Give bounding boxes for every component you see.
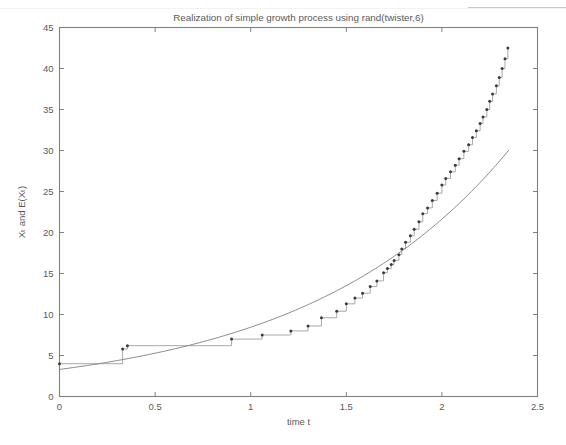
jump-marker <box>444 177 447 180</box>
jump-marker <box>462 150 465 153</box>
jump-marker <box>261 334 264 337</box>
jump-marker <box>467 143 470 146</box>
y-tick-label-3: 15 <box>43 268 54 279</box>
jump-marker <box>504 57 507 60</box>
y-tick-label-8: 40 <box>43 63 54 74</box>
jump-marker <box>335 310 338 313</box>
series-step-path <box>60 48 508 364</box>
chart-title: Realization of simple growth process usi… <box>173 12 423 23</box>
jump-marker <box>491 92 494 95</box>
jump-marker <box>454 164 457 167</box>
jump-marker <box>390 263 393 266</box>
jump-marker <box>404 241 407 244</box>
jump-marker <box>361 292 364 295</box>
plot-box-border <box>60 28 538 397</box>
x-axis-label: time t <box>287 416 311 427</box>
jump-marker <box>58 362 61 365</box>
jump-marker <box>431 199 434 202</box>
series-mean-curve <box>60 150 509 369</box>
jump-marker <box>307 324 310 327</box>
y-tick-label-7: 35 <box>43 104 54 115</box>
jump-marker <box>421 212 424 215</box>
y-tick-label-4: 20 <box>43 227 54 238</box>
x-tick-label-0: 0 <box>57 401 62 412</box>
y-axis-label: Xₜ and E(Xₜ) <box>16 186 27 238</box>
x-tick-label-4: 2 <box>439 401 444 412</box>
jump-marker <box>121 347 124 350</box>
jump-marker <box>458 157 461 160</box>
jump-marker <box>375 279 378 282</box>
jump-marker <box>475 129 478 132</box>
jump-marker <box>126 344 129 347</box>
jump-marker <box>417 220 420 223</box>
y-tick-label-0: 0 <box>48 391 53 402</box>
x-tick-label-1: 0.5 <box>148 401 161 412</box>
figure-canvas: 05101520253035404500.511.522.5time tXₜ a… <box>0 0 566 445</box>
y-tick-label-5: 25 <box>43 186 54 197</box>
jump-marker <box>345 302 348 305</box>
y-tick-label-1: 5 <box>48 350 53 361</box>
jump-marker <box>353 297 356 300</box>
jump-marker <box>488 100 491 103</box>
x-tick-label-3: 1.5 <box>340 401 353 412</box>
x-tick-label-2: 1 <box>248 401 253 412</box>
jump-marker <box>498 76 501 79</box>
jump-marker <box>289 329 292 332</box>
jump-marker <box>471 136 474 139</box>
jump-marker <box>393 259 396 262</box>
jump-marker <box>485 108 488 111</box>
jump-marker <box>413 228 416 231</box>
jump-marker <box>479 122 482 125</box>
y-tick-label-2: 10 <box>43 309 54 320</box>
jump-marker <box>482 115 485 118</box>
jump-marker <box>506 47 509 50</box>
jump-marker <box>449 170 452 173</box>
jump-marker <box>382 271 385 274</box>
jump-marker <box>501 67 504 70</box>
y-tick-label-9: 45 <box>43 22 54 33</box>
plot-svg: 05101520253035404500.511.522.5time tXₜ a… <box>0 0 566 445</box>
jump-marker <box>436 192 439 195</box>
jump-marker <box>495 84 498 87</box>
jump-marker <box>409 234 412 237</box>
x-tick-label-5: 2.5 <box>531 401 544 412</box>
jump-marker <box>320 316 323 319</box>
jump-marker <box>369 285 372 288</box>
y-tick-label-6: 30 <box>43 145 54 156</box>
jump-marker <box>440 183 443 186</box>
jump-marker <box>426 206 429 209</box>
jump-marker <box>386 267 389 270</box>
jump-marker <box>230 338 233 341</box>
